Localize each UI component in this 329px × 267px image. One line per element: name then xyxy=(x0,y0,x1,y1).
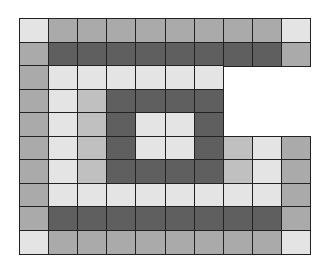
grid-cell-r1-c4 xyxy=(135,42,166,67)
grid-cell-r4-c6 xyxy=(194,112,225,137)
grid-cell-r2-c3 xyxy=(106,65,137,90)
grid-cell-r7-c9 xyxy=(281,183,312,208)
grid-cell-r0-c4 xyxy=(135,18,166,43)
grid-cell-r5-c4 xyxy=(135,136,166,161)
grid-cell-r5-c7 xyxy=(223,136,254,161)
grid-cell-r4-c2 xyxy=(77,112,108,137)
grid-cell-r3-c0 xyxy=(19,89,50,114)
grid-cell-r2-c0 xyxy=(19,65,50,90)
grid-cell-r9-c9 xyxy=(281,230,312,255)
grid-cell-r1-c5 xyxy=(165,42,196,67)
grid-cell-r1-c9 xyxy=(281,42,312,67)
grid-cell-r9-c5 xyxy=(165,230,196,255)
grid-cell-r5-c0 xyxy=(19,136,50,161)
grid-cell-r6-c7 xyxy=(223,159,254,184)
grid-cell-r8-c3 xyxy=(106,206,137,231)
grid-cell-r9-c6 xyxy=(194,230,225,255)
grid-cell-r5-c9 xyxy=(281,136,312,161)
grid-cell-r7-c6 xyxy=(194,183,225,208)
grid-cell-r1-c8 xyxy=(252,42,283,67)
grid-cell-r8-c5 xyxy=(165,206,196,231)
grid-cell-r4-c1 xyxy=(48,112,79,137)
grid-cell-r8-c8 xyxy=(252,206,283,231)
grid-cell-r3-c2 xyxy=(77,89,108,114)
grid-cell-r9-c0 xyxy=(19,230,50,255)
grid-cell-r1-c7 xyxy=(223,42,254,67)
grid-cell-r4-c5 xyxy=(165,112,196,137)
grid-cell-r5-c2 xyxy=(77,136,108,161)
grid-cell-r9-c1 xyxy=(48,230,79,255)
grid-cell-r3-c6 xyxy=(194,89,225,114)
grid-cell-r9-c7 xyxy=(223,230,254,255)
grid-cell-r7-c5 xyxy=(165,183,196,208)
grid-cell-r2-c4 xyxy=(135,65,166,90)
grid-cell-r5-c5 xyxy=(165,136,196,161)
grid-cell-r9-c3 xyxy=(106,230,137,255)
grid-cell-r7-c0 xyxy=(19,183,50,208)
grid-cell-r5-c1 xyxy=(48,136,79,161)
grid-cell-r3-c4 xyxy=(135,89,166,114)
grid-cell-r4-c4 xyxy=(135,112,166,137)
grid-cell-r8-c1 xyxy=(48,206,79,231)
grid-cell-r2-c1 xyxy=(48,65,79,90)
grid-cell-r1-c6 xyxy=(194,42,225,67)
grid-cell-r5-c6 xyxy=(194,136,225,161)
grid-cell-r0-c3 xyxy=(106,18,137,43)
grid-cell-r3-c5 xyxy=(165,89,196,114)
grid-cell-r5-c8 xyxy=(252,136,283,161)
grid-cell-r9-c8 xyxy=(252,230,283,255)
grid-cell-r1-c2 xyxy=(77,42,108,67)
grid-cell-r0-c2 xyxy=(77,18,108,43)
grid-cell-r7-c3 xyxy=(106,183,137,208)
grid-cell-r2-c5 xyxy=(165,65,196,90)
grid-cell-r0-c6 xyxy=(194,18,225,43)
grid-cell-r6-c5 xyxy=(165,159,196,184)
grid-cell-r4-c0 xyxy=(19,112,50,137)
grid-cell-r6-c4 xyxy=(135,159,166,184)
grid-cell-r0-c5 xyxy=(165,18,196,43)
grid-cell-r1-c1 xyxy=(48,42,79,67)
grid-cell-r8-c0 xyxy=(19,206,50,231)
grid-cell-r7-c7 xyxy=(223,183,254,208)
grid-cell-r8-c4 xyxy=(135,206,166,231)
grid-cell-r2-c2 xyxy=(77,65,108,90)
grid-cell-r9-c2 xyxy=(77,230,108,255)
grid-cell-r6-c6 xyxy=(194,159,225,184)
grid-cell-r6-c0 xyxy=(19,159,50,184)
grid-cell-r1-c3 xyxy=(106,42,137,67)
grid-cell-r1-c0 xyxy=(19,42,50,67)
grid-cell-r3-c1 xyxy=(48,89,79,114)
grid-cell-r0-c8 xyxy=(252,18,283,43)
grid-cell-r7-c4 xyxy=(135,183,166,208)
grid-cell-r9-c4 xyxy=(135,230,166,255)
grid-cell-r5-c3 xyxy=(106,136,137,161)
grid-cell-r8-c7 xyxy=(223,206,254,231)
grid-cell-r8-c9 xyxy=(281,206,312,231)
grid-cell-r0-c0 xyxy=(19,18,50,43)
grid-cell-r3-c3 xyxy=(106,89,137,114)
grid-cell-r6-c3 xyxy=(106,159,137,184)
grid-cell-r0-c1 xyxy=(48,18,79,43)
grid-cell-r7-c2 xyxy=(77,183,108,208)
grid-cell-r7-c1 xyxy=(48,183,79,208)
grid-cell-r8-c6 xyxy=(194,206,225,231)
grid-cell-r2-c6 xyxy=(194,65,225,90)
grid-cell-r6-c8 xyxy=(252,159,283,184)
grid-cell-r0-c7 xyxy=(223,18,254,43)
grid-cell-r8-c2 xyxy=(77,206,108,231)
grid-cell-r0-c9 xyxy=(281,18,312,43)
grid-cell-r4-c3 xyxy=(106,112,137,137)
grid-cell-r6-c2 xyxy=(77,159,108,184)
grid-cell-r6-c1 xyxy=(48,159,79,184)
grid-cell-r6-c9 xyxy=(281,159,312,184)
grid-cell-r7-c8 xyxy=(252,183,283,208)
